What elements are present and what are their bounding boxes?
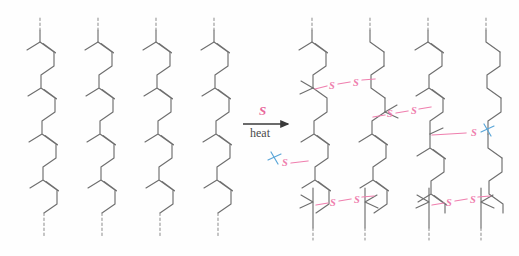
right-lower-linkarm-3 — [416, 188, 429, 228]
right-lower-linkarm-4 — [481, 188, 494, 228]
arrow-reagent-label: S — [259, 104, 266, 117]
crosslink-1-disulfide — [315, 79, 375, 89]
s-label: S — [446, 197, 452, 208]
right-chain-3 — [415, 30, 447, 213]
left-chain-3 — [143, 30, 175, 213]
arrow-condition-label: heat — [250, 127, 270, 139]
s-label: S — [329, 80, 335, 91]
s-label: S — [470, 194, 476, 205]
s-label: S — [353, 77, 359, 88]
crosslink-2-disulfide — [373, 107, 431, 117]
dangling-sulfur-right — [432, 133, 466, 135]
dangling-s-label: S — [282, 157, 288, 168]
sulfur-atom-labels: S S S S S S S S S S — [282, 77, 477, 208]
left-chain-2 — [85, 30, 117, 213]
dangling-s-label: S — [471, 127, 477, 138]
vulcanization-reaction-figure: S S S S S S S S S S S heat — [0, 0, 519, 256]
s-label: S — [387, 108, 393, 119]
s-label: S — [411, 105, 417, 116]
left-chain-4 — [201, 30, 233, 213]
right-lower-linkarm-2 — [365, 188, 378, 228]
right-lower-linkarm-1 — [300, 188, 313, 228]
right-chain-2 — [359, 30, 398, 213]
sulfur-crosslink-layer — [291, 79, 490, 205]
right-chain-1 — [299, 30, 331, 213]
dangling-sulfur-left — [291, 161, 308, 163]
s-label: S — [330, 197, 336, 208]
open-bond-squiggle-marks — [268, 124, 494, 164]
left-chain-1 — [27, 30, 59, 213]
s-label: S — [354, 194, 360, 205]
right-chain-4 — [486, 30, 503, 213]
squiggle-icon — [268, 152, 281, 164]
